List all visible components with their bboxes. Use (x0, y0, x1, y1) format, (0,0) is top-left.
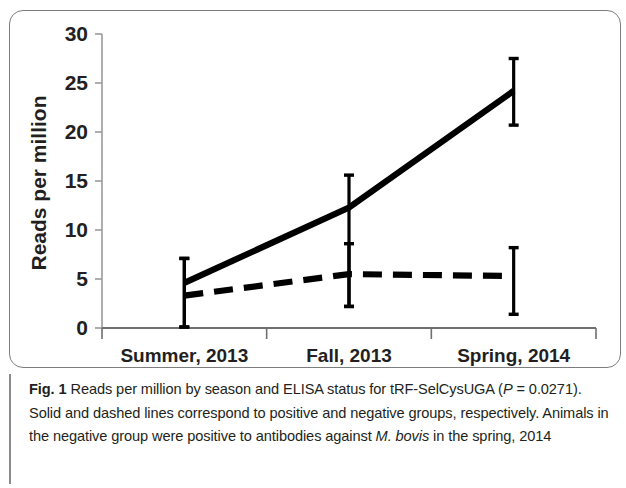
x-category-label: Fall, 2013 (306, 345, 392, 366)
y-axis-label: Reads per million (27, 95, 50, 270)
y-tick-label: 10 (65, 218, 88, 241)
category-label-group: Summer, 2013Fall, 2013Spring, 2014 (120, 345, 570, 366)
caption-p-symbol: P (503, 381, 513, 397)
caption-segment-3: in the spring, 2014 (429, 428, 551, 444)
x-category-label: Summer, 2013 (120, 345, 248, 366)
x-tick-group (102, 328, 596, 339)
y-tick-label: 20 (65, 120, 88, 143)
figure-container: Reads per million 051015202530 Summer, 2… (0, 0, 626, 488)
figure-caption: Fig. 1 Reads per million by season and E… (9, 374, 621, 484)
caption-text: Fig. 1 Reads per million by season and E… (29, 378, 611, 449)
chart-plot: Reads per million 051015202530 Summer, 2… (0, 0, 626, 370)
y-tick-label: 15 (65, 169, 89, 192)
y-tick-group: 051015202530 (65, 22, 102, 339)
y-tick-label: 0 (76, 316, 88, 339)
caption-segment-1: Reads per million by season and ELISA st… (67, 381, 503, 397)
y-tick-label: 25 (65, 71, 89, 94)
y-tick-label: 30 (65, 22, 88, 45)
x-category-label: Spring, 2014 (457, 345, 570, 366)
y-tick-label: 5 (76, 267, 88, 290)
caption-species-name: M. bovis (376, 428, 430, 444)
figure-number: Fig. 1 (29, 381, 67, 397)
